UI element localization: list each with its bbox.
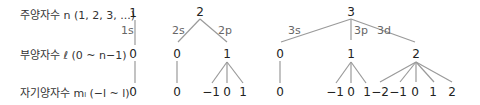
- orbital-label-3d: 3d: [377, 25, 391, 36]
- m-value: 0: [173, 86, 181, 98]
- l-value-3p: 1: [347, 48, 355, 60]
- m-value: 1: [363, 86, 371, 98]
- l-value-3d: 2: [412, 48, 420, 60]
- m-value: −1: [202, 86, 220, 98]
- l-value-3s: 0: [276, 48, 284, 60]
- orbital-label-2s: 2s: [172, 25, 185, 36]
- orbital-label-3p: 3p: [354, 25, 368, 36]
- m-value: −2: [371, 86, 389, 98]
- l-value-2s: 0: [173, 48, 181, 60]
- m-value: 0: [411, 86, 419, 98]
- m-value: 0: [223, 86, 231, 98]
- m-value: −1: [326, 86, 344, 98]
- m-value: 0: [347, 86, 355, 98]
- m-value: 1: [239, 86, 247, 98]
- n-value-2: 2: [196, 6, 204, 18]
- magnetic-quantum-label: 자기양자수 mₗ (−l ~ l): [20, 84, 130, 100]
- m-value: 1: [429, 86, 437, 98]
- principal-quantum-label: 주양자수 n (1, 2, 3, ...): [20, 6, 135, 22]
- azimuthal-quantum-label: 부양자수 ℓ (0 ~ n−1): [20, 46, 127, 62]
- n-value-1: 1: [129, 7, 137, 19]
- n-value-3: 3: [347, 6, 355, 18]
- m-value: 0: [129, 86, 137, 98]
- orbital-label-3s: 3s: [288, 25, 301, 36]
- l-value-2p: 1: [223, 48, 231, 60]
- l-value-1s: 0: [129, 48, 137, 60]
- m-value: 0: [276, 86, 284, 98]
- orbital-label-1s: 1s: [121, 25, 134, 36]
- orbital-label-2p: 2p: [218, 25, 232, 36]
- m-value: −1: [389, 86, 407, 98]
- m-value: 2: [448, 86, 456, 98]
